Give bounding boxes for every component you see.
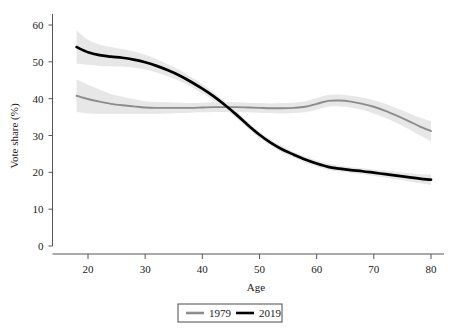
chart-figure: 0102030405060 20304050607080 Vote share … [0,0,460,336]
x-tick-label: 50 [254,263,266,275]
y-tick-label: 40 [33,93,45,105]
vote-share-by-age-line-chart: 0102030405060 20304050607080 Vote share … [0,0,460,336]
chart-legend: 1979 2019 [178,304,282,322]
x-tick-label: 70 [368,263,380,275]
chart-background [0,0,460,336]
y-tick-label: 20 [33,166,45,178]
x-tick-label: 20 [83,263,95,275]
legend-label-1979: 1979 [209,307,232,319]
y-tick-label: 10 [33,203,45,215]
legend-label-2019: 2019 [259,307,282,319]
x-tick-label: 60 [311,263,323,275]
y-tick-label: 50 [33,56,45,68]
y-axis-title: Vote share (%) [8,103,21,168]
x-tick-label: 40 [197,263,209,275]
x-tick-label: 30 [140,263,152,275]
x-axis-title: Age [247,281,265,293]
x-tick-label: 80 [426,263,438,275]
y-tick-label: 60 [33,19,45,31]
y-tick-label: 30 [33,130,45,142]
y-tick-label: 0 [38,240,44,252]
